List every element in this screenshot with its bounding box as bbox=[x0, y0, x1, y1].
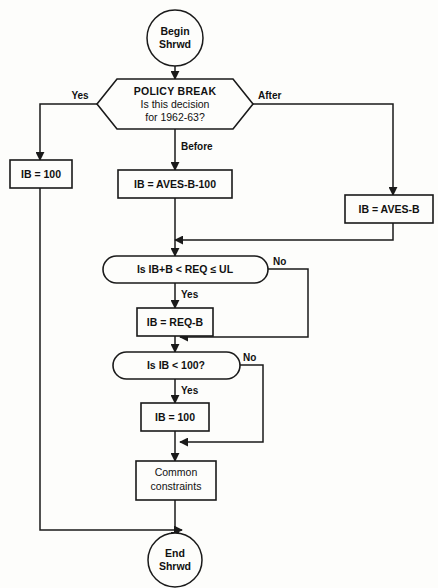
node-end-shrwd[interactable]: End Shrwd bbox=[148, 533, 202, 587]
edge-label-after-policy: After bbox=[258, 90, 281, 101]
edge-label-no-ib100: No bbox=[243, 352, 256, 363]
edge-label-before-policy: Before bbox=[181, 141, 213, 152]
ib-req-b-label: IB = REQ-B bbox=[147, 316, 204, 328]
node-policy-break[interactable]: POLICY BREAK Is this decision for 1962-6… bbox=[97, 79, 253, 129]
flowchart-page: Begin Shrwd POLICY BREAK Is this decisio… bbox=[0, 0, 438, 588]
common-constraints-line2: constraints bbox=[151, 480, 202, 492]
ib-aves-b-label: IB = AVES-B bbox=[359, 203, 420, 215]
node-ib-100-mid[interactable]: IB = 100 bbox=[141, 403, 209, 431]
ib-100-left-label: IB = 100 bbox=[21, 168, 61, 180]
policy-break-line1: POLICY BREAK bbox=[134, 85, 217, 97]
ib-aves-b-100-label: IB = AVES-B-100 bbox=[134, 178, 216, 190]
node-ib-req-b[interactable]: IB = REQ-B bbox=[137, 308, 213, 336]
edge-label-no-req: No bbox=[273, 256, 286, 267]
connector-aves-b-to-spine bbox=[175, 223, 393, 240]
policy-break-line3: for 1962-63? bbox=[145, 111, 205, 123]
end-line1: End bbox=[165, 547, 185, 559]
flowchart-canvas: Begin Shrwd POLICY BREAK Is this decisio… bbox=[0, 0, 438, 588]
node-check-ib-100[interactable]: Is IB < 100? bbox=[113, 352, 240, 379]
end-line2: Shrwd bbox=[159, 560, 191, 572]
node-ib-100-left[interactable]: IB = 100 bbox=[10, 160, 72, 188]
begin-line1: Begin bbox=[160, 25, 189, 37]
node-ib-aves-b[interactable]: IB = AVES-B bbox=[345, 195, 433, 223]
edge-label-yes-req: Yes bbox=[181, 289, 199, 300]
ib-100-mid-label: IB = 100 bbox=[155, 411, 195, 423]
policy-break-line2: Is this decision bbox=[141, 98, 210, 110]
edge-label-yes-ib100: Yes bbox=[181, 385, 199, 396]
connector-after-to-aves-b bbox=[233, 104, 393, 195]
common-constraints-line1: Common bbox=[155, 466, 198, 478]
begin-line2: Shrwd bbox=[159, 38, 191, 50]
node-begin-shrwd[interactable]: Begin Shrwd bbox=[147, 10, 203, 66]
check-ib-100-label: Is IB < 100? bbox=[147, 359, 205, 371]
edge-label-yes-policy: Yes bbox=[71, 90, 89, 101]
node-ib-aves-b-100[interactable]: IB = AVES-B-100 bbox=[118, 170, 232, 198]
node-common-constraints[interactable]: Common constraints bbox=[136, 461, 216, 500]
check-req-label: Is IB+B < REQ ≤ UL bbox=[137, 263, 234, 275]
node-check-req[interactable]: Is IB+B < REQ ≤ UL bbox=[103, 256, 268, 283]
